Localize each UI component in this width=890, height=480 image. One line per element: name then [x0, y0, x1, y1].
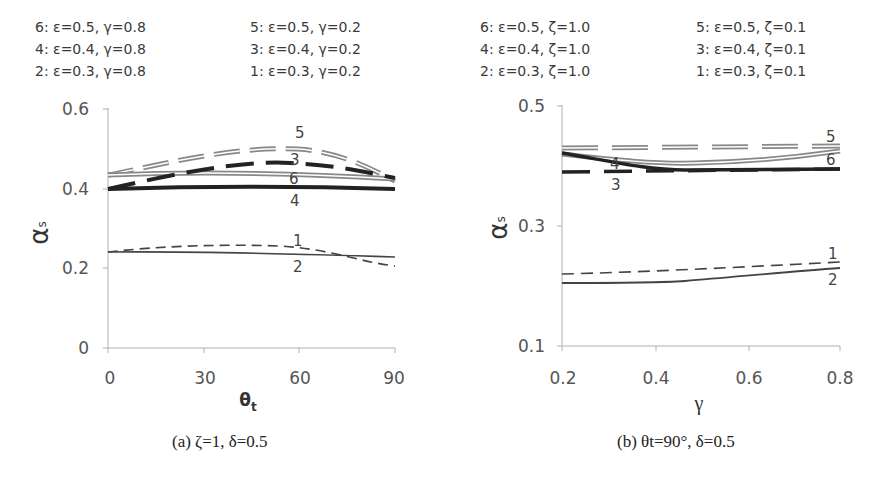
series-label-2: 2	[293, 258, 303, 276]
plot-area-b: 0.5 0.3 0.1 0.2 0.4 0.6 0.8 γ αs 5 6	[445, 0, 890, 480]
x-axis-title: γ	[694, 392, 704, 415]
series-label-1: 1	[828, 245, 838, 263]
ytick-0.4: 0.4	[62, 179, 89, 199]
series-1	[562, 262, 840, 274]
series-label-3: 3	[611, 176, 621, 194]
series-label-4: 4	[610, 155, 620, 173]
series-label-2: 2	[828, 271, 838, 289]
y-axis-title: αs	[483, 216, 513, 239]
caption-b: (b) θt=90°, δ=0.5	[617, 432, 735, 452]
x-ticks	[562, 346, 840, 351]
plot-area-a: 0.6 0.4 0.2 0 0 30 60 90 θt αs	[0, 0, 445, 480]
series-2	[562, 268, 840, 283]
ytick-0: 0	[78, 338, 89, 358]
ytick-0.6: 0.6	[62, 99, 89, 119]
xtick-0: 0	[105, 368, 116, 388]
series-3	[562, 169, 840, 172]
xtick-0.6: 0.6	[735, 368, 762, 388]
ytick-0.3: 0.3	[518, 216, 545, 236]
x-ticks	[108, 348, 395, 353]
series-label-5: 5	[826, 128, 836, 146]
ytick-0.1: 0.1	[518, 336, 545, 356]
series-label-1: 1	[293, 232, 303, 250]
xtick-90: 90	[383, 368, 405, 388]
series-label-5: 5	[295, 124, 305, 142]
y-ticks	[103, 109, 108, 348]
xtick-0.4: 0.4	[642, 368, 669, 388]
x-axis-title: θt	[239, 390, 257, 414]
series-label-3: 3	[290, 151, 300, 169]
series-label-6: 6	[289, 170, 299, 188]
svg-text:αs: αs	[483, 216, 513, 239]
xtick-0.2: 0.2	[549, 368, 576, 388]
y-axis-title: αs	[24, 221, 54, 244]
y-ticks	[557, 106, 562, 346]
ytick-0.5: 0.5	[518, 96, 545, 116]
xtick-60: 60	[289, 368, 311, 388]
xtick-0.8: 0.8	[826, 368, 853, 388]
series-4	[108, 187, 395, 189]
xtick-30: 30	[194, 368, 216, 388]
chart-panel-b: 6: ε=0.5, ζ=1.0 4: ε=0.4, ζ=1.0 2: ε=0.3…	[445, 0, 890, 480]
series-label-4: 4	[290, 192, 300, 210]
series-5	[562, 146, 840, 148]
series-label-6: 6	[826, 151, 836, 169]
svg-text:αs: αs	[24, 221, 54, 244]
ytick-0.2: 0.2	[62, 258, 89, 278]
chart-panel-a: 6: ε=0.5, γ=0.8 4: ε=0.4, γ=0.8 2: ε=0.3…	[0, 0, 445, 480]
series-2	[108, 252, 395, 257]
caption-a: (a) ζ=1, δ=0.5	[172, 432, 268, 452]
